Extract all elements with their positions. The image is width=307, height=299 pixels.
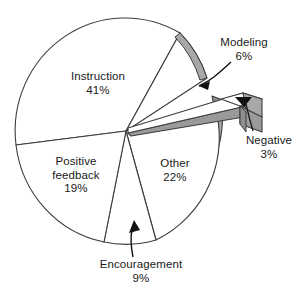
slice-label-instruction: Instruction 41% bbox=[46, 70, 150, 97]
slice-label-other-name: Other bbox=[160, 157, 189, 169]
slice-label-modeling-value: 6% bbox=[206, 50, 282, 64]
slice-label-encouragement-name: Encouragement bbox=[100, 258, 183, 270]
pie-slices bbox=[15, 18, 219, 244]
pie-chart-figure: Instruction 41% Modeling 6% Negative 3% … bbox=[0, 0, 307, 299]
slice-label-instruction-name: Instruction bbox=[71, 70, 125, 82]
slice-label-positive-feedback: Positive feedback 19% bbox=[28, 155, 124, 196]
slice-label-negative-name: Negative bbox=[246, 134, 292, 146]
slice-label-encouragement: Encouragement 9% bbox=[76, 258, 206, 285]
slice-label-other: Other 22% bbox=[140, 157, 210, 184]
slice-label-instruction-value: 41% bbox=[46, 84, 150, 98]
slice-label-modeling-name: Modeling bbox=[220, 36, 267, 48]
slice-label-negative-value: 3% bbox=[232, 148, 306, 162]
slice-label-other-value: 22% bbox=[140, 171, 210, 185]
slice-label-negative: Negative 3% bbox=[232, 134, 306, 161]
slice-label-positive-feedback-value: 19% bbox=[28, 182, 124, 196]
slice-label-positive-feedback-name-line1: Positive bbox=[55, 155, 96, 167]
slice-label-positive-feedback-name-line2: feedback bbox=[28, 169, 124, 183]
slice-label-encouragement-value: 9% bbox=[76, 272, 206, 286]
slice-label-modeling: Modeling 6% bbox=[206, 36, 282, 63]
